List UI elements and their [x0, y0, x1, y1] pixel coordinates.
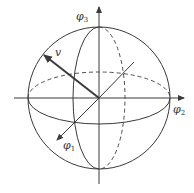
vector-v-label: v	[55, 46, 62, 59]
phi1-axis	[57, 98, 99, 140]
phi3-label: φ3	[76, 10, 88, 24]
phi2-label: φ2	[173, 103, 185, 117]
phi1-label: φ1	[63, 139, 75, 153]
phi1-axis-back	[99, 62, 134, 98]
sphere-diagram: φ3 φ2 φ1 v	[0, 0, 194, 193]
vector-v-arrow	[44, 55, 99, 98]
